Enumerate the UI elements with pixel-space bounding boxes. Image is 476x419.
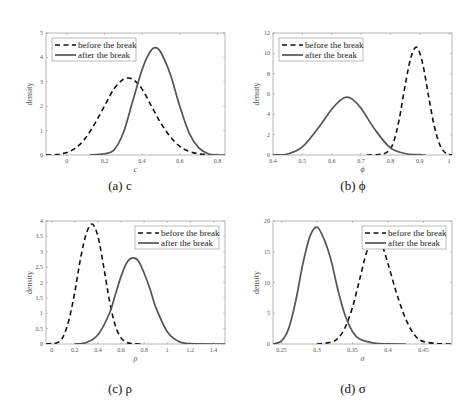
legend-before-label: before the break [78,40,137,50]
x-tick-label: 0.7 [357,158,365,164]
x-tick-label: 1.2 [187,347,195,353]
y-tick-label: 12 [264,30,270,36]
y-tick-label: 0 [40,341,43,347]
x-tick-label: 0 [65,158,68,164]
legend-before-label: before the break [305,40,364,50]
y-tick-label: 1.5 [36,295,44,301]
x-tick-label: 0.6 [117,347,125,353]
y-tick-label: 3 [40,249,43,255]
legend: before the breakafter the break [362,226,447,249]
y-tick-label: 4 [40,54,43,60]
legend-after-label: after the break [161,238,213,248]
y-tick-label: 0 [267,341,270,347]
x-tick-label: 0 [50,347,53,353]
subfigure-caption: (a) c [108,178,132,193]
legend: before the breakafter the break [135,226,220,249]
subplot-b: 0.40.50.60.70.80.91024681012ϕdensitybefo… [252,30,452,193]
x-tick-label: 0.4 [138,158,146,164]
x-tick-label: 0.8 [140,347,148,353]
x-tick-label: 0.9 [416,158,424,164]
x-tick-label: 0.6 [328,158,336,164]
y-tick-label: 5 [40,30,43,36]
y-tick-label: 4 [267,111,270,117]
x-axis-label: ρ [133,354,138,363]
subplot-c: 00.20.40.60.811.21.400.511.522.533.54ρde… [25,218,225,396]
x-tick-label: 0.45 [418,347,429,353]
x-axis-label: σ [361,354,366,363]
subfigure-caption: (d) σ [340,381,365,396]
y-tick-label: 3.5 [36,233,44,239]
y-axis-label: density [25,82,34,105]
y-tick-label: 20 [264,218,270,224]
x-tick-label: 0.4 [94,347,102,353]
y-axis-label: density [252,271,261,294]
x-tick-label: 0.35 [347,347,358,353]
y-tick-label: 2 [40,103,43,109]
legend-after-label: after the break [78,50,130,60]
y-tick-label: 15 [264,249,270,255]
legend-before-label: before the break [388,228,447,238]
subplot-a: 00.20.40.60.8012345cdensitybefore the br… [25,30,225,193]
subplot-d: 0.250.30.350.40.4505101520σdensitybefore… [252,218,452,396]
y-tick-label: 2 [267,132,270,138]
x-tick-label: 0.4 [384,347,392,353]
x-axis-label: ϕ [360,165,364,174]
x-tick-label: 0.2 [71,347,79,353]
x-tick-label: 0.2 [101,158,109,164]
y-tick-label: 6 [267,91,270,97]
y-tick-label: 4 [40,218,43,224]
figure: 00.20.40.60.8012345cdensitybefore the br… [0,0,476,419]
y-tick-label: 3 [40,79,43,85]
y-axis-label: density [252,82,261,105]
x-tick-label: 0.3 [313,347,321,353]
x-tick-label: 0.5 [299,158,307,164]
y-tick-label: 0.5 [36,326,44,332]
y-tick-label: 5 [267,310,270,316]
subfigure-caption: (c) ρ [108,381,132,396]
x-tick-label: 1 [166,347,169,353]
y-tick-label: 2.5 [36,264,44,270]
y-tick-label: 8 [267,71,270,77]
x-tick-label: 0.6 [176,158,184,164]
y-tick-label: 0 [267,152,270,158]
legend: before the breakafter the break [52,38,137,61]
subfigure-caption: (b) ϕ [340,178,365,193]
y-tick-label: 1 [40,128,43,134]
legend-after-label: after the break [305,50,357,60]
x-tick-label: 0.8 [214,158,222,164]
legend-after-label: after the break [388,238,440,248]
y-axis-label: density [25,271,34,294]
y-tick-label: 1 [40,310,43,316]
legend-before-label: before the break [161,228,220,238]
x-axis-label: c [134,165,138,174]
x-tick-label: 0.25 [276,347,287,353]
legend: before the breakafter the break [279,38,364,61]
y-tick-label: 10 [264,50,270,56]
y-tick-label: 2 [40,280,43,286]
y-tick-label: 10 [264,280,270,286]
x-tick-label: 0.8 [387,158,395,164]
x-tick-label: 1.4 [210,347,218,353]
x-tick-label: 1 [448,158,451,164]
x-tick-label: 0.4 [269,158,277,164]
y-tick-label: 0 [40,152,43,158]
